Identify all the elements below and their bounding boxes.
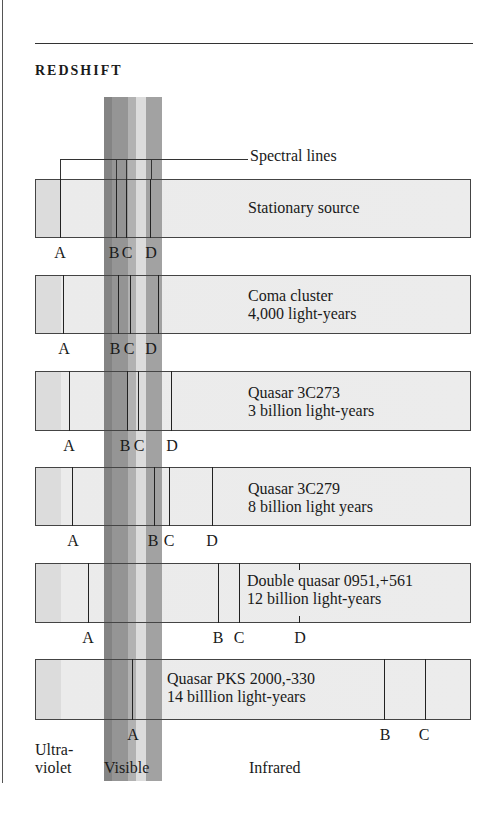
- spectral-line-c: [239, 563, 240, 623]
- source-distance: 3 billion light-years: [248, 402, 374, 420]
- callout-leader-d: [151, 159, 152, 179]
- callout-leader-line: [60, 159, 248, 160]
- spectral-line-a: [72, 467, 73, 526]
- callout-leader-c: [126, 159, 127, 179]
- frame-left-border: [2, 0, 3, 783]
- source-label: Quasar 3C2733 billion light-years: [248, 384, 374, 420]
- line-letter-d: D: [166, 438, 178, 454]
- spectral-line-a: [60, 179, 61, 238]
- spectral-line-c: [130, 275, 131, 334]
- spectral-line-tick-d: [299, 616, 300, 623]
- line-letter-c: C: [134, 438, 145, 454]
- source-label: Coma cluster4,000 light-years: [248, 287, 356, 323]
- line-letter-b: B: [380, 727, 391, 743]
- spectral-line-d: [171, 371, 172, 431]
- line-letter-a: A: [127, 727, 139, 743]
- source-name: Quasar 3C279: [248, 480, 373, 498]
- spectral-line-b: [154, 467, 155, 526]
- source-distance: 14 billlion light-years: [167, 688, 315, 706]
- spectral-line-b: [127, 371, 128, 431]
- callout-leader-b: [116, 159, 117, 179]
- infrared-label: Infrared: [249, 759, 301, 777]
- spectral-line-a: [63, 275, 64, 334]
- line-letter-d: D: [145, 245, 157, 261]
- source-label: Double quasar 0951,+56112 billion light-…: [247, 572, 413, 608]
- line-letter-a: A: [58, 341, 70, 357]
- spectral-line-c: [169, 467, 170, 526]
- source-distance: 8 billion light years: [248, 498, 373, 516]
- spectral-line-a: [132, 659, 133, 720]
- line-letter-b: B: [148, 533, 159, 549]
- source-name: Quasar 3C273: [248, 384, 374, 402]
- spectral-line-d: [212, 467, 213, 526]
- spectral-line-d: [158, 275, 159, 334]
- spectral-line-b: [218, 563, 219, 623]
- spectral-line-b: [116, 179, 117, 238]
- line-letter-a: A: [67, 533, 79, 549]
- spectral-line-b: [384, 659, 385, 720]
- line-letter-c: C: [234, 630, 245, 646]
- spectral-line-tick-d: [299, 563, 300, 570]
- spectral-line-c: [138, 371, 139, 431]
- source-label: Quasar 3C2798 billion light years: [248, 480, 373, 516]
- ultraviolet-label: Ultra- violet: [35, 741, 73, 777]
- source-name: Quasar PKS 2000,-330: [167, 670, 315, 688]
- line-letter-d: D: [294, 630, 306, 646]
- line-letter-a: A: [63, 438, 75, 454]
- line-letter-c: C: [419, 727, 430, 743]
- visible-label: Visible: [104, 759, 149, 777]
- spectral-lines-label: Spectral lines: [250, 147, 337, 165]
- line-letter-a: A: [54, 245, 66, 261]
- source-distance: 12 billion light-years: [247, 590, 413, 608]
- source-name: Double quasar 0951,+561: [247, 572, 413, 590]
- line-letter-a: A: [82, 630, 94, 646]
- line-letter-d: D: [145, 341, 157, 357]
- line-letter-c: C: [122, 245, 133, 261]
- callout-leader-a: [60, 159, 61, 179]
- source-label: Quasar PKS 2000,-33014 billlion light-ye…: [167, 670, 315, 706]
- line-letter-b: B: [213, 630, 224, 646]
- spectral-line-d: [150, 179, 151, 238]
- line-letter-d: D: [206, 533, 218, 549]
- spectral-line-c: [126, 179, 127, 238]
- spectral-line-a: [88, 563, 89, 623]
- source-label: Stationary source: [248, 199, 360, 217]
- spectral-line-b: [118, 275, 119, 334]
- source-name: Coma cluster: [248, 287, 356, 305]
- diagram-title: REDSHIFT: [35, 63, 123, 79]
- spectral-line-c: [425, 659, 426, 720]
- line-letter-b: B: [109, 245, 120, 261]
- line-letter-c: C: [164, 533, 175, 549]
- line-letter-b: B: [120, 438, 131, 454]
- source-distance: 4,000 light-years: [248, 305, 356, 323]
- source-name: Stationary source: [248, 199, 360, 217]
- ultraviolet-label-line1: Ultra-: [35, 741, 73, 759]
- ultraviolet-label-line2: violet: [35, 759, 73, 777]
- line-letter-b: B: [110, 341, 121, 357]
- top-rule: [35, 43, 473, 44]
- line-letter-c: C: [124, 341, 135, 357]
- spectral-line-a: [69, 371, 70, 431]
